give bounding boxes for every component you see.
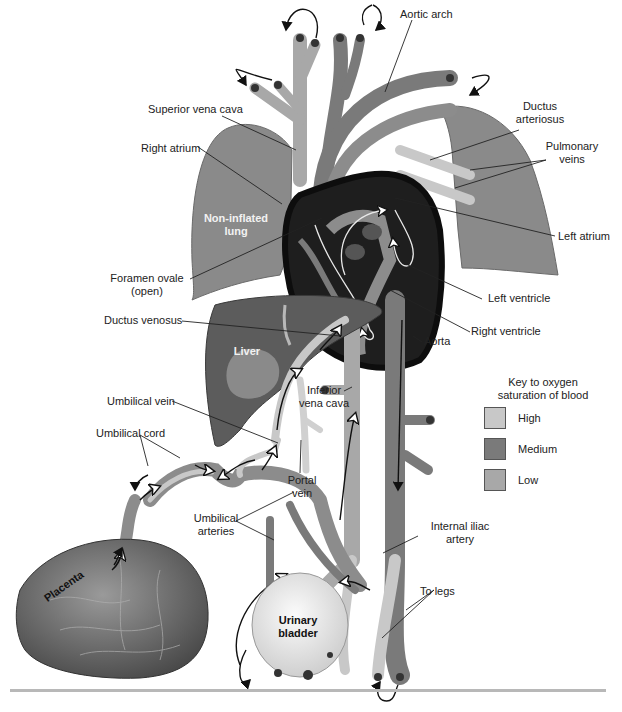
label-urinary-bladder: Urinary bladder [268, 614, 328, 640]
label-left-atrium: Left atrium [558, 230, 610, 243]
fetal-circulation-figure: Aortic arch Superior vena cava Ductus ar… [0, 0, 622, 712]
key-title: Key to oxygen saturation of blood [478, 376, 608, 402]
label-umbilical-cord: Umbilical cord [96, 427, 165, 440]
key-item-medium: Medium [484, 438, 557, 460]
swatch-medium [484, 438, 506, 460]
label-aortic-arch: Aortic arch [400, 8, 453, 21]
label-superior-vena-cava: Superior vena cava [148, 103, 243, 116]
label-to-legs: To legs [420, 585, 455, 598]
label-right-ventricle: Right ventricle [471, 325, 541, 338]
label-umbilical-vein: Umbilical vein [107, 395, 175, 408]
label-pulmonary-veins: Pulmonary veins [532, 140, 612, 166]
label-non-inflated-lung: Non-inflated lung [196, 212, 276, 238]
placenta-shape [16, 539, 208, 678]
key-item-low: Low [484, 469, 538, 491]
label-portal-vein: Portal vein [282, 474, 322, 500]
label-right-atrium: Right atrium [141, 142, 200, 155]
label-inferior-vena-cava: Inferior vena cava [294, 384, 354, 410]
label-aorta: Aorta [424, 335, 450, 348]
key-item-high: High [484, 407, 541, 429]
label-left-ventricle: Left ventricle [488, 292, 550, 305]
bottom-divider [10, 689, 606, 692]
label-ductus-venosus: Ductus venosus [104, 314, 182, 327]
label-umbilical-arteries: Umbilical arteries [188, 512, 244, 538]
label-foramen-ovale: Foramen ovale (open) [104, 272, 190, 298]
swatch-high [484, 407, 506, 429]
label-ductus-arteriosus: Ductus arteriosus [500, 100, 580, 126]
label-liver: Liver [222, 345, 272, 358]
swatch-low [484, 469, 506, 491]
label-internal-iliac-artery: Internal iliac artery [420, 520, 500, 546]
